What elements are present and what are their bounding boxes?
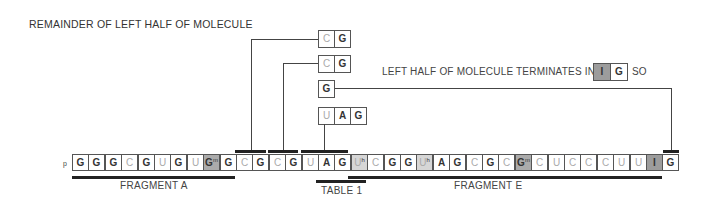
connector-cg2-vertical [283, 63, 284, 152]
nucleotide-cell: U [154, 154, 171, 171]
base-letter: U [635, 157, 642, 168]
base-letter: C [471, 157, 478, 168]
nucleotide-cell: C [121, 154, 138, 171]
base-letter: U [307, 157, 314, 168]
overlap-bar-cg2 [268, 150, 298, 153]
nucleotide-cell: G [170, 154, 187, 171]
upper-fragment-cg-1: C G [318, 30, 352, 48]
base-letter: G [405, 157, 413, 168]
base-letter: G [323, 83, 331, 94]
modification-mark: m [525, 157, 530, 163]
phosphate-prefix: p [63, 160, 67, 167]
base-letter: C [323, 58, 330, 69]
base-letter: C [274, 157, 281, 168]
diagram-title: REMAINDER OF LEFT HALF OF MOLECULE [29, 18, 253, 30]
base-letter: G [205, 157, 213, 168]
termination-suffix: SO [632, 66, 646, 77]
base-letter: C [241, 157, 248, 168]
termination-cells: I G [593, 63, 628, 81]
fragment-e-label: FRAGMENT E [454, 180, 522, 191]
nucleotide-cell: G [350, 107, 367, 125]
base-letter: I [601, 66, 604, 77]
nucleotide-cell: U [613, 154, 630, 171]
nucleotide-cell: A [334, 107, 351, 125]
nucleotide-cell: U [187, 154, 204, 171]
rna-sequence: GGGCGUGUGmGCGCGUAGUhCGGUhAGCGCGmCUCCCUUI… [72, 154, 680, 171]
nucleotide-cell: G [252, 154, 269, 171]
base-letter: A [339, 110, 346, 121]
nucleotide-cell: C [498, 154, 515, 171]
nucleotide-cell: A [433, 154, 450, 171]
nucleotide-cell: Uh [351, 154, 368, 171]
base-letter: G [487, 157, 495, 168]
upper-fragment-g: G [318, 80, 335, 98]
nucleotide-cell: C [564, 154, 581, 171]
nucleotide-cell: G [610, 63, 628, 81]
nucleotide-cell: C [318, 55, 335, 73]
termination-note: LEFT HALF OF MOLECULE TERMINATES IN [382, 66, 595, 77]
base-letter: G [454, 157, 462, 168]
base-letter: A [438, 157, 445, 168]
modification-mark: h [361, 157, 364, 163]
base-letter: G [143, 157, 151, 168]
upper-fragment-cg-2: C G [318, 55, 352, 73]
upper-fragment-uag: U A G [318, 107, 368, 125]
modification-mark: m [213, 157, 218, 163]
base-letter: G [667, 157, 675, 168]
nucleotide-cell: C [269, 154, 286, 171]
table-1-label: TABLE 1 [321, 185, 362, 196]
base-letter: C [585, 157, 592, 168]
nucleotide-cell: U [630, 154, 647, 171]
nucleotide-cell: G [334, 154, 351, 171]
overlap-bar-cg1 [235, 150, 266, 153]
connector-uag-vertical [324, 124, 325, 152]
nucleotide-cell: G [662, 154, 679, 171]
fragment-e-bar [348, 176, 662, 179]
base-letter: G [77, 157, 85, 168]
base-letter: G [175, 157, 183, 168]
base-letter: A [323, 157, 330, 168]
base-letter: G [615, 66, 623, 77]
nucleotide-cell: C [236, 154, 253, 171]
base-letter: U [618, 157, 625, 168]
nucleotide-cell: C [466, 154, 483, 171]
nucleotide-cell: C [318, 30, 335, 48]
base-letter: C [372, 157, 379, 168]
base-letter: G [389, 157, 397, 168]
fragment-a-label: FRAGMENT A [120, 180, 188, 191]
nucleotide-cell: U [302, 154, 319, 171]
base-letter: G [339, 58, 347, 69]
nucleotide-cell: G [318, 80, 335, 98]
nucleotide-cell-inosine: I [593, 63, 611, 81]
nucleotide-cell: A [318, 154, 335, 171]
base-letter: G [110, 157, 118, 168]
connector-g-vertical [671, 88, 672, 151]
base-letter: G [93, 157, 101, 168]
nucleotide-cell: Gm [515, 154, 532, 171]
nucleotide-cell: G [482, 154, 499, 171]
nucleotide-cell: U [318, 107, 335, 125]
nucleotide-cell: Uh [416, 154, 433, 171]
base-letter: C [602, 157, 609, 168]
base-letter: U [192, 157, 199, 168]
modification-mark: h [426, 157, 429, 163]
base-letter: C [536, 157, 543, 168]
nucleotide-cell: U [548, 154, 565, 171]
base-letter: U [323, 110, 330, 121]
nucleotide-cell: G [72, 154, 89, 171]
overlap-bar-uag [301, 150, 348, 153]
overlap-bar-g [663, 150, 679, 153]
base-letter: U [553, 157, 560, 168]
connector-cg1-vertical [251, 39, 252, 152]
base-letter: G [339, 157, 347, 168]
base-letter: G [339, 33, 347, 44]
nucleotide-cell: G [334, 55, 351, 73]
nucleotide-cell: C [531, 154, 548, 171]
connector-g-horizontal [335, 88, 672, 89]
nucleotide-cell: Gm [203, 154, 220, 171]
base-letter: G [517, 157, 525, 168]
base-letter: U [159, 157, 166, 168]
base-letter: C [126, 157, 133, 168]
base-letter: C [323, 33, 330, 44]
base-letter: C [503, 157, 510, 168]
